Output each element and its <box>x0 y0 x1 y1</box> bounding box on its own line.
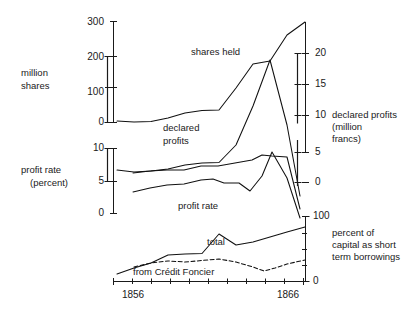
chart-figure: 300 200 100 0 20 15 10 10 5 <box>0 0 420 310</box>
ytick-right-p1-15: 15 <box>315 78 327 89</box>
ytick-left-p1-100: 100 <box>87 86 104 97</box>
axis-x-years: 1856 1866 <box>113 278 306 300</box>
ytick-left-p1-200: 200 <box>87 51 104 62</box>
axis-title-million-shares: million shares <box>21 67 50 91</box>
series-label-from-credit-foncier: from Crédit Foncier <box>133 266 214 277</box>
series-declared-profits <box>117 60 300 196</box>
series-label-declared-profits-line2: profits <box>163 135 189 146</box>
ytick-left-p2-10: 10 <box>93 142 105 153</box>
ytick-right-p3-100: 100 <box>313 210 330 221</box>
ytick-right-p2-0: 0 <box>315 176 321 187</box>
xtick-label-start: 1856 <box>122 289 145 300</box>
ytick-right-p2-5: 5 <box>315 146 321 157</box>
xtick-label-end: 1866 <box>277 289 300 300</box>
axis-title-million-shares-line2: shares <box>21 80 50 91</box>
ytick-left-p2-0: 0 <box>98 207 104 218</box>
axis-title-profit-rate-line2: (percent) <box>30 177 68 188</box>
axis-right-short-term-borrowings: 100 0 <box>302 210 330 286</box>
axis-title-short-term-borrowings: percent of capital as short term borrowi… <box>332 227 400 262</box>
axis-title-declared-profits-line1: declared profits <box>332 109 397 120</box>
axis-title-profit-rate-line1: profit rate <box>21 164 61 175</box>
series-label-total: total <box>207 236 225 247</box>
series-label-declared-profits-line1: declared <box>163 122 199 133</box>
series-label-profit-rate: profit rate <box>178 200 218 211</box>
series-shares-held <box>117 22 305 122</box>
series-label-declared-profits: declared profits <box>163 122 199 146</box>
axis-title-short-term-line2: capital as short <box>332 239 396 250</box>
ytick-left-p2-5: 5 <box>98 175 104 186</box>
axis-right-declared-profits: 20 15 10 <box>295 22 327 152</box>
axis-left-profit-rate: 10 5 0 <box>93 142 117 218</box>
series-label-shares-held: shares held <box>191 46 240 57</box>
axis-title-million-shares-line1: million <box>21 67 48 78</box>
axis-title-short-term-line3: term borrowings <box>332 251 400 262</box>
ytick-left-p1-0: 0 <box>98 116 104 127</box>
axis-title-declared-profits: declared profits (million francs) <box>332 109 397 144</box>
axis-title-short-term-line1: percent of <box>332 227 375 238</box>
axis-title-profit-rate: profit rate (percent) <box>21 164 68 188</box>
axis-title-declared-profits-line2: (million <box>332 121 362 132</box>
axis-left-million-shares: 300 200 100 0 <box>87 16 117 127</box>
chart-svg: 300 200 100 0 20 15 10 10 5 <box>0 0 420 310</box>
ytick-right-p3-0: 0 <box>313 275 319 286</box>
axis-title-declared-profits-line3: francs) <box>332 133 361 144</box>
axis-right-profit-rate: 5 0 <box>295 140 322 187</box>
ytick-left-p1-300: 300 <box>87 16 104 27</box>
ytick-right-p1-10: 10 <box>315 109 327 120</box>
axis-left-range-bracket-p1 <box>105 56 111 123</box>
ytick-right-p1-20: 20 <box>315 47 327 58</box>
